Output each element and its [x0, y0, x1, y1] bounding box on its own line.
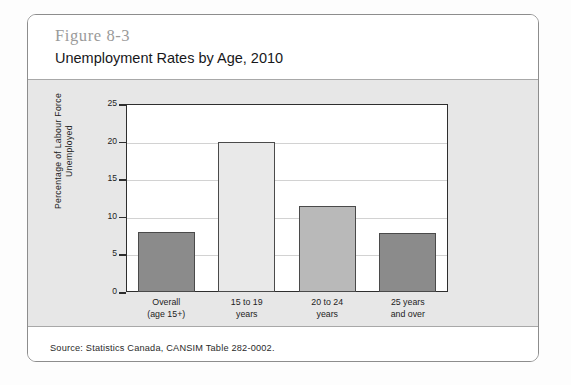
plot-area: [126, 104, 448, 292]
x-label-overall-line-1: Overall: [126, 296, 207, 308]
y-axis-title-line-2: Unemployed: [64, 71, 75, 231]
y-axis-title: Percentage of Labour Force Unemployed: [53, 71, 75, 231]
y-tick-label-5: 5: [112, 248, 117, 258]
y-tick-label-15: 15: [107, 173, 117, 183]
x-label-20-to-24: 20 to 24 years: [287, 296, 368, 320]
y-tick-mark-15: [119, 179, 126, 181]
y-tick-mark-5: [119, 254, 126, 256]
figure-page: Figure 8-3 Unemployment Rates by Age, 20…: [0, 0, 571, 385]
x-label-15-to-19: 15 to 19 years: [207, 296, 288, 320]
gridline-20: [127, 143, 447, 144]
gridlines: [127, 105, 447, 291]
y-axis-ticks: 25 20 15 10 5: [88, 104, 126, 292]
gridline-15: [127, 180, 447, 181]
y-tick-mark-25: [119, 104, 126, 106]
figure-title: Unemployment Rates by Age, 2010: [55, 48, 538, 68]
gridline-10: [127, 218, 447, 219]
x-label-20-to-24-line-2: years: [287, 308, 368, 320]
source-note: Source: Statistics Canada, CANSIM Table …: [50, 343, 275, 353]
x-label-25-and-over-line-1: 25 years: [368, 296, 449, 308]
y-tick-mark-20: [119, 142, 126, 144]
x-label-20-to-24-line-1: 20 to 24: [287, 296, 368, 308]
x-label-25-and-over-line-2: and over: [368, 308, 449, 320]
x-label-overall-line-2: (age 15+): [126, 308, 207, 320]
chart-panel: Percentage of Labour Force Unemployed 25…: [28, 79, 538, 327]
y-tick-label-0: 0: [112, 286, 117, 296]
y-tick-label-20: 20: [107, 136, 117, 146]
y-tick-mark-0: [119, 292, 126, 294]
y-tick-mark-10: [119, 217, 126, 219]
x-label-15-to-19-line-1: 15 to 19: [207, 296, 288, 308]
figure-number: Figure 8-3: [55, 26, 538, 46]
y-tick-label-10: 10: [107, 211, 117, 221]
figure-card: Figure 8-3 Unemployment Rates by Age, 20…: [27, 14, 539, 362]
x-label-15-to-19-line-2: years: [207, 308, 288, 320]
x-label-25-and-over: 25 years and over: [368, 296, 449, 320]
figure-footer: Source: Statistics Canada, CANSIM Table …: [28, 327, 538, 361]
figure-header: Figure 8-3 Unemployment Rates by Age, 20…: [28, 15, 538, 79]
x-axis-labels: Overall (age 15+) 15 to 19 years 20 to 2…: [126, 296, 448, 320]
y-tick-label-25: 25: [107, 98, 117, 108]
y-axis-title-line-1: Percentage of Labour Force: [53, 71, 64, 231]
x-label-overall: Overall (age 15+): [126, 296, 207, 320]
gridline-5: [127, 255, 447, 256]
